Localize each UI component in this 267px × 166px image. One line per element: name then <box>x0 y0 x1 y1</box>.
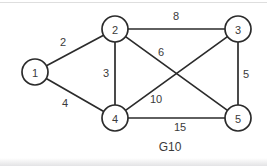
weighted-graph-svg: 12345 2483651015 G10 <box>0 0 267 166</box>
graph-diagram-page: 12345 2483651015 G10 <box>0 0 267 166</box>
edge-weight-4-5: 15 <box>174 121 186 133</box>
node-5[interactable]: 5 <box>225 105 251 131</box>
node-label-2: 2 <box>112 24 118 36</box>
edge-weight-4-3: 10 <box>150 93 162 105</box>
nodes-group: 12345 <box>22 16 251 131</box>
edge-weight-1-2: 2 <box>60 36 66 48</box>
node-4[interactable]: 4 <box>102 105 128 131</box>
node-label-4: 4 <box>112 113 118 125</box>
node-label-3: 3 <box>235 24 241 36</box>
node-label-1: 1 <box>32 67 38 79</box>
edge-weight-2-3: 8 <box>173 10 179 22</box>
edge-1-4 <box>46 78 103 111</box>
edge-weight-2-4: 3 <box>103 67 109 79</box>
node-1[interactable]: 1 <box>22 59 48 85</box>
node-label-5: 5 <box>235 113 241 125</box>
edge-weight-2-5: 6 <box>158 46 164 58</box>
edge-weight-1-4: 4 <box>62 97 68 109</box>
edge-weight-3-5: 5 <box>243 68 249 80</box>
diagram-caption: G10 <box>159 140 182 154</box>
edge-1-2 <box>46 35 103 66</box>
node-2[interactable]: 2 <box>102 16 128 42</box>
edges-group <box>46 29 238 118</box>
scan-artifact-bottom-smudge <box>0 158 267 166</box>
node-3[interactable]: 3 <box>225 16 251 42</box>
